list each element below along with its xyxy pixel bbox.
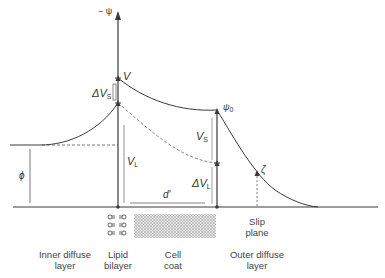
region-inner-diffuse-layer: Inner diffuselayer: [30, 249, 100, 271]
axis-arrow-icon: [115, 11, 121, 20]
phi-label: ϕ: [19, 170, 25, 181]
inner-diffuse-curve: [10, 103, 118, 145]
lipid-bilayer-icon: [108, 215, 126, 235]
vl-label: VL: [127, 155, 138, 168]
slip-plane-label: Slipplane: [240, 216, 274, 238]
zeta-label: ζ: [261, 164, 266, 175]
zeta-arrow-icon: [255, 170, 260, 176]
region-lipid-bilayer: Lipidbilayer: [100, 249, 136, 271]
d-prime-label: d′: [163, 189, 170, 200]
delta-vs-bracket: [113, 84, 116, 100]
cell-coat-block: [134, 214, 216, 238]
membrane-potential-curve: [118, 78, 217, 110]
delta-vl-label: ΔVL: [192, 177, 211, 190]
region-cell-coat: Cellcoat: [155, 249, 191, 271]
potential-diagram: [0, 0, 385, 278]
v-label: V: [123, 70, 130, 82]
delta-vs-label: ΔVS: [92, 87, 111, 100]
vs-label: VS: [196, 130, 208, 143]
axis-label: − ψ: [98, 6, 112, 16]
psi0-label: ψ0: [223, 102, 233, 113]
region-outer-diffuse-layer: Outer diffuselayer: [222, 249, 292, 271]
outer-diffuse-curve: [217, 110, 318, 207]
